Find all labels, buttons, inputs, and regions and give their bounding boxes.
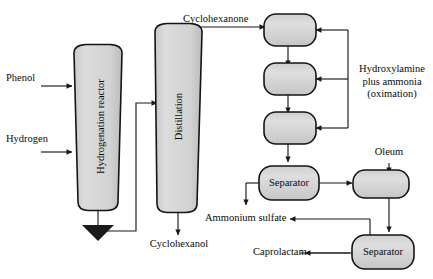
label-phenol: Phenol	[6, 72, 35, 84]
vessel-oximation-reactor-1	[264, 14, 316, 46]
label-separator-2: Separator	[361, 246, 405, 257]
vessel-oximation-reactor-3	[264, 112, 316, 144]
label-hydroxylamine-line-2: plus ammonia	[362, 76, 421, 87]
process-flow-diagram: Phenol Hydrogen Hydrogenation reactor Di…	[0, 0, 433, 279]
label-caprolactam: Caprolactam	[253, 246, 307, 258]
label-cyclohexanol: Cyclohexanol	[140, 238, 218, 250]
label-ammonium-sulfate: Ammonium sulfate	[205, 212, 286, 224]
label-hydroxylamine: Hydroxylamine plus ammonia (oximation)	[352, 63, 432, 101]
label-hydrogenation-reactor: Hydrogenation reactor	[95, 71, 106, 183]
label-hydrogen: Hydrogen	[6, 133, 48, 145]
label-hydroxylamine-line-3: (oximation)	[367, 88, 417, 99]
label-hydroxylamine-line-1: Hydroxylamine	[359, 63, 425, 74]
label-oleum: Oleum	[366, 146, 412, 158]
vessel-rearrangement-reactor	[353, 170, 409, 198]
vessel-oximation-reactor-2	[264, 63, 316, 95]
label-cyclohexanone: Cyclohexanone	[183, 13, 248, 25]
arrowhead-reactor-out	[82, 225, 114, 241]
label-separator-1: Separator	[267, 177, 311, 188]
label-distillation: Distillation	[173, 87, 184, 147]
